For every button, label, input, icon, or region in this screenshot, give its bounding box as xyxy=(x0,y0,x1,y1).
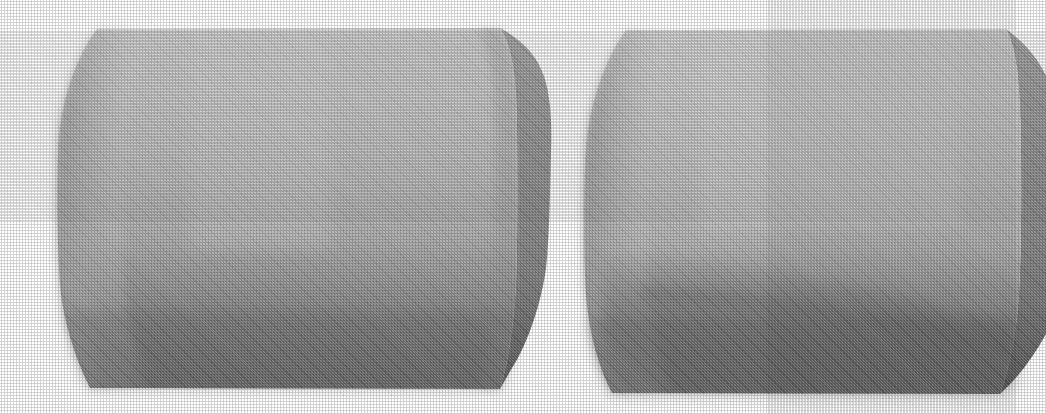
left-solid-front-highlight xyxy=(190,34,330,250)
left-solid xyxy=(57,28,551,389)
figure-canvas xyxy=(0,0,1046,414)
right-solid-bottom-shadow xyxy=(588,318,1019,394)
right-solid-front-highlight xyxy=(700,34,960,230)
left-solid-bottom-shadow xyxy=(64,310,516,389)
solids-illustration xyxy=(0,0,1046,414)
right-solid xyxy=(584,29,1046,394)
